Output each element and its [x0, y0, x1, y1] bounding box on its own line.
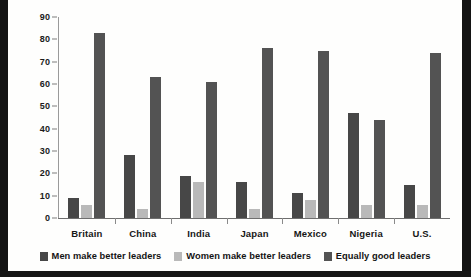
bar-us-s2 [430, 53, 441, 218]
bar-group-japan [227, 17, 283, 218]
y-axis-tickmark-70 [52, 61, 57, 62]
legend-item-1[interactable]: Women make better leaders [174, 251, 311, 261]
legend-label-1: Women make better leaders [186, 251, 311, 261]
x-axis-label-china: China [129, 228, 156, 239]
bar-us-s1 [417, 205, 428, 218]
bar-china-s0 [124, 155, 135, 218]
page-left-border [0, 0, 8, 277]
y-axis-tickmark-40 [52, 128, 57, 129]
chart-legend: Men make better leadersWomen make better… [8, 251, 462, 261]
chart-canvas: 9080706050403020100 BritainChinaIndiaJap… [8, 0, 462, 271]
bar-india-s2 [206, 82, 217, 218]
bar-india-s0 [180, 176, 191, 218]
bar-group-nigeria [338, 17, 394, 218]
x-axis-separator-2 [171, 218, 172, 224]
x-axis-label-britain: Britain [71, 228, 102, 239]
y-axis-tickmark-10 [52, 195, 57, 196]
bar-india-s1 [193, 182, 204, 218]
y-axis-tick-60: 60 [18, 79, 50, 89]
x-axis-separator-1 [115, 218, 116, 224]
y-axis-tickmark-90 [52, 17, 57, 18]
chart-page: 9080706050403020100 BritainChinaIndiaJap… [0, 0, 471, 277]
bar-group-britain [59, 17, 115, 218]
page-right-border [462, 0, 471, 277]
bar-group-china [115, 17, 171, 218]
legend-item-2[interactable]: Equally good leaders [324, 251, 431, 261]
y-axis-tick-50: 50 [18, 101, 50, 111]
y-axis-tickmark-20 [52, 173, 57, 174]
y-axis-tickmark-0 [52, 218, 57, 219]
y-axis-tick-10: 10 [18, 191, 50, 201]
bar-group-india [171, 17, 227, 218]
x-axis-label-japan: Japan [240, 228, 268, 239]
bar-us-s0 [404, 185, 415, 219]
legend-item-0[interactable]: Men make better leaders [40, 251, 162, 261]
y-axis-tickmark-60 [52, 84, 57, 85]
legend-swatch-equal-icon [324, 252, 332, 261]
y-axis-tick-30: 30 [18, 146, 50, 156]
y-axis-tick-labels: 9080706050403020100 [18, 12, 50, 227]
x-axis-separator-5 [338, 218, 339, 224]
y-axis-tickmark-30 [52, 151, 57, 152]
legend-label-0: Men make better leaders [52, 251, 162, 261]
bar-mexico-s1 [305, 200, 316, 218]
plot-area: 9080706050403020100 BritainChinaIndiaJap… [8, 0, 462, 271]
x-axis-label-us: U.S. [413, 228, 432, 239]
bar-mexico-s0 [292, 193, 303, 218]
bar-nigeria-s1 [361, 205, 372, 218]
y-axis-tickmark-80 [52, 39, 57, 40]
legend-label-2: Equally good leaders [336, 251, 431, 261]
bar-group-us [394, 17, 450, 218]
bar-japan-s1 [249, 209, 260, 218]
y-axis-tick-20: 20 [18, 168, 50, 178]
x-axis-label-nigeria: Nigeria [350, 228, 383, 239]
x-axis-category-labels: BritainChinaIndiaJapanMexicoNigeriaU.S. [59, 228, 450, 242]
x-axis-separator-6 [394, 218, 395, 224]
x-axis-line [58, 218, 450, 219]
bar-japan-s0 [236, 182, 247, 218]
x-axis-label-india: India [187, 228, 210, 239]
y-axis-tick-40: 40 [18, 124, 50, 134]
y-axis-tick-80: 80 [18, 34, 50, 44]
y-axis-tickmark-50 [52, 106, 57, 107]
x-axis-separator-4 [282, 218, 283, 224]
y-axis-tick-90: 90 [18, 12, 50, 22]
y-axis-tick-0: 0 [18, 213, 50, 223]
bar-nigeria-s2 [374, 120, 385, 218]
legend-swatch-women-icon [174, 252, 182, 261]
bar-series-container [59, 17, 450, 218]
bar-mexico-s2 [318, 51, 329, 219]
bar-china-s2 [150, 77, 161, 218]
bar-britain-s2 [94, 33, 105, 218]
bar-china-s1 [137, 209, 148, 218]
bar-nigeria-s0 [348, 113, 359, 218]
bar-britain-s1 [81, 205, 92, 218]
bar-group-mexico [282, 17, 338, 218]
y-axis-tick-70: 70 [18, 57, 50, 67]
x-axis-label-mexico: Mexico [294, 228, 327, 239]
x-axis-separator-3 [227, 218, 228, 224]
legend-swatch-men-icon [40, 252, 48, 261]
page-bottom-border [0, 271, 471, 277]
bar-britain-s0 [68, 198, 79, 218]
bar-japan-s2 [262, 48, 273, 218]
